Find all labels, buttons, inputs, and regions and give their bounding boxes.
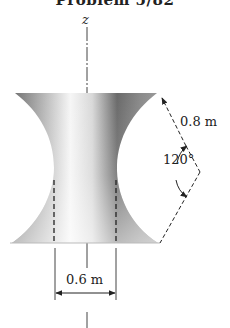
construction-line-lower xyxy=(160,172,200,243)
hyperboloid-diagram xyxy=(0,0,230,328)
z-axis-label: z xyxy=(82,12,89,27)
base-width-label: 0.6 m xyxy=(66,272,103,287)
angle-label: 120° xyxy=(163,152,194,167)
slant-length-label: 0.8 m xyxy=(180,114,217,129)
angle-arrow-lower xyxy=(176,180,187,197)
